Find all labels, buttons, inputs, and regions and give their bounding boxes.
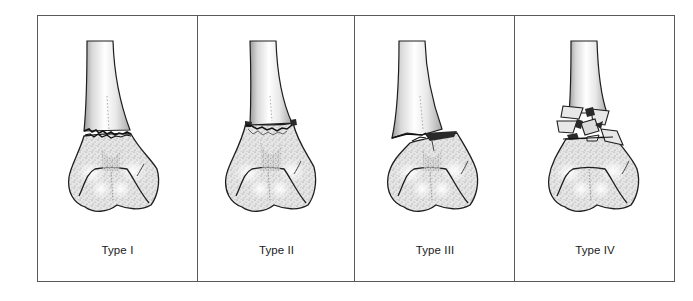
distal-femur-type-4-illustration <box>515 16 675 281</box>
shaft <box>250 41 292 125</box>
comminuted-fragments <box>557 106 623 145</box>
panel-type-4: Type IV <box>514 16 675 281</box>
label-type-2: Type II <box>198 244 355 256</box>
panel-type-2: Type II <box>197 16 355 281</box>
label-type-4: Type IV <box>515 244 675 256</box>
distal-femur-type-1-illustration <box>38 16 197 281</box>
panel-type-3: Type III <box>354 16 515 281</box>
figure-frame: Type I <box>37 15 675 282</box>
epiphysis <box>549 137 639 211</box>
distal-femur-type-3-illustration <box>355 16 515 281</box>
panel-type-1: Type I <box>38 16 197 281</box>
label-type-3: Type III <box>355 244 515 256</box>
shaft <box>392 41 442 138</box>
epiphysis <box>226 123 316 211</box>
label-type-1: Type I <box>38 244 197 256</box>
shaft <box>569 41 607 113</box>
epiphysis <box>69 134 159 212</box>
distal-femur-type-2-illustration <box>198 16 355 281</box>
shaft <box>84 41 130 131</box>
